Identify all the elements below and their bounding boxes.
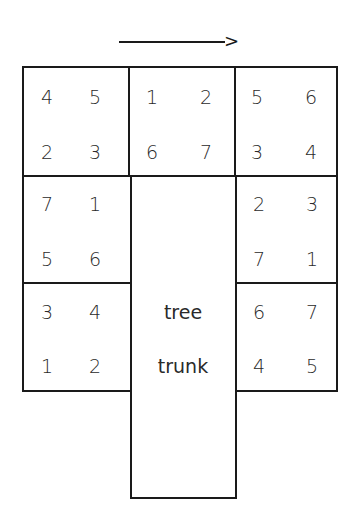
trunk-label-line2: trunk bbox=[131, 355, 235, 377]
trunk-right bbox=[235, 175, 237, 499]
block-top-left-n4: 3 bbox=[83, 141, 107, 163]
block-bot-right-n1: 6 bbox=[247, 301, 271, 323]
block-mid-right-n1: 2 bbox=[247, 193, 271, 215]
block-bot-left-n3: 1 bbox=[35, 355, 59, 377]
row-divider-1 bbox=[22, 175, 338, 177]
block-bot-right-n4: 5 bbox=[300, 355, 324, 377]
block-bot-right-n2: 7 bbox=[300, 301, 324, 323]
trunk-bottom bbox=[130, 497, 237, 499]
border-bottom-left bbox=[22, 390, 131, 392]
block-top-left-n3: 2 bbox=[35, 141, 59, 163]
block-top-middle-n3: 6 bbox=[140, 141, 164, 163]
border-top bbox=[22, 66, 338, 68]
block-mid-left-n2: 1 bbox=[83, 193, 107, 215]
block-top-right-n4: 4 bbox=[299, 141, 323, 163]
border-left bbox=[22, 66, 24, 392]
block-top-middle-n4: 7 bbox=[194, 141, 218, 163]
block-top-right-n3: 3 bbox=[245, 141, 269, 163]
row-divider-2-right bbox=[235, 282, 338, 284]
trunk-left bbox=[130, 175, 132, 499]
border-bottom-right bbox=[235, 390, 338, 392]
trunk-label-line1: tree bbox=[131, 301, 235, 323]
row-divider-2-left bbox=[22, 282, 131, 284]
block-bot-left-n1: 3 bbox=[35, 301, 59, 323]
block-top-right-n2: 6 bbox=[299, 86, 323, 108]
block-top-left-n1: 4 bbox=[35, 86, 59, 108]
block-bot-left-n4: 2 bbox=[83, 355, 107, 377]
block-mid-right-n2: 3 bbox=[300, 193, 324, 215]
arrow-shaft bbox=[119, 41, 225, 43]
block-mid-left-n4: 6 bbox=[83, 248, 107, 270]
block-mid-right-n3: 7 bbox=[247, 248, 271, 270]
block-top-left-n2: 5 bbox=[83, 86, 107, 108]
divider-col2 bbox=[234, 66, 236, 176]
block-bot-right-n3: 4 bbox=[247, 355, 271, 377]
block-mid-left-n3: 5 bbox=[35, 248, 59, 270]
divider-col1 bbox=[128, 66, 130, 176]
border-right bbox=[336, 66, 338, 392]
block-mid-right-n4: 1 bbox=[300, 248, 324, 270]
block-top-middle-n1: 1 bbox=[140, 86, 164, 108]
block-top-right-n1: 5 bbox=[245, 86, 269, 108]
block-top-middle-n2: 2 bbox=[194, 86, 218, 108]
block-bot-left-n2: 4 bbox=[83, 301, 107, 323]
block-mid-left-n1: 7 bbox=[35, 193, 59, 215]
arrow-head-icon: > bbox=[224, 30, 239, 52]
